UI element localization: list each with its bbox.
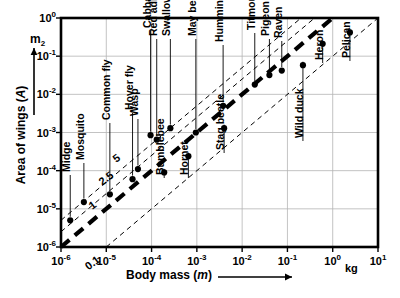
data-point-label: Wasp (128, 88, 140, 116)
x-axis-title: Body mass (m) (126, 268, 212, 282)
data-point-marker[interactable] (193, 129, 199, 135)
data-point-marker[interactable] (67, 217, 73, 223)
data-point-label: Titmouse (245, 0, 257, 30)
y-tick-label--4: 10-4 (24, 163, 56, 177)
x-axis-unit-label: kg (345, 262, 358, 274)
x-tick-label--6: 10-6 (47, 253, 75, 267)
x-tick-label--4: 10-4 (138, 253, 166, 267)
y-tick-label--1: 10-1 (24, 48, 56, 62)
data-point-label: Wild duck (293, 88, 305, 138)
data-point-label: Pelican (340, 21, 352, 58)
x-tick-label--3: 10-3 (183, 253, 211, 267)
x-axis-arrow-head (285, 274, 292, 281)
y-tick-label-0: 100 (24, 10, 56, 24)
y-tick-label--5: 10-5 (24, 201, 56, 215)
reference-line-label-5: 5 (110, 151, 122, 164)
x-tick-label-1: 101 (364, 253, 392, 267)
data-series-wing-area: MidgeMosquitoCommon flyHover flyWaspCabb… (60, 0, 353, 223)
data-point-label: Common fly (100, 59, 112, 120)
data-point-label: Hummingbird (213, 0, 225, 42)
data-point-label: Hornet (178, 141, 190, 175)
data-point-marker[interactable] (135, 166, 141, 172)
data-point-label: Bumblebee (154, 118, 166, 175)
x-tick-label-0: 100 (319, 253, 347, 267)
data-point-marker[interactable] (300, 62, 306, 68)
data-point-label: Heron (313, 30, 325, 60)
data-point-marker[interactable] (220, 103, 226, 109)
reference-line-label-2-5: 2.5 (96, 169, 115, 188)
reference-line-label-1: 1 (86, 198, 98, 211)
data-point-marker[interactable] (81, 199, 87, 205)
data-point-label: Mosquito (74, 113, 86, 160)
y-tick-label--6: 10-6 (24, 239, 56, 253)
x-tick-label--2: 10-2 (228, 253, 256, 267)
data-point-marker[interactable] (279, 67, 285, 73)
x-tick-label--1: 10-1 (273, 253, 301, 267)
y-tick-label--2: 10-2 (24, 86, 56, 100)
data-point-marker[interactable] (167, 125, 173, 131)
data-point-label: Stag beetle (214, 94, 226, 150)
data-point-marker[interactable] (266, 72, 272, 78)
y-axis-unit-label: m2 (30, 32, 45, 48)
data-point-marker[interactable] (147, 132, 153, 138)
x-tick-label--5: 10-5 (92, 253, 120, 267)
data-point-marker[interactable] (107, 191, 113, 197)
data-point-label: Raven (272, 6, 284, 38)
wing-area-vs-body-mass-figure: 0.112.55MidgeMosquitoCommon flyHover fly… (0, 0, 400, 298)
reference-line-5 (61, 18, 301, 220)
reference-line-2-5 (61, 18, 315, 232)
data-point-marker[interactable] (252, 81, 258, 87)
y-axis-title: Area of wings (A) (14, 70, 28, 200)
data-point-marker[interactable] (129, 176, 135, 182)
y-tick-label--3: 10-3 (24, 125, 56, 139)
